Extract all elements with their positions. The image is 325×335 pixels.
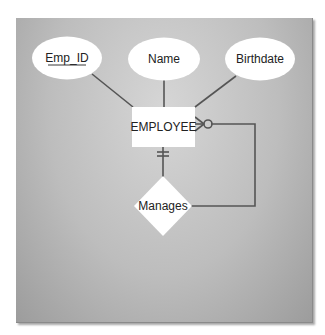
- crows-foot-optional-many-icon: [195, 117, 212, 131]
- attribute-birthdate: Birthdate: [225, 38, 295, 81]
- connector-empid: [92, 74, 133, 107]
- relationship-manages-label: Manages: [138, 199, 187, 213]
- relationship-manages: Manages: [134, 176, 192, 236]
- attribute-birthdate-label: Birthdate: [236, 52, 284, 66]
- attribute-emp-id-label: Emp_ID: [45, 51, 89, 65]
- entity-employee: EMPLOYEE: [130, 107, 196, 147]
- attribute-name-label: Name: [148, 52, 180, 66]
- connector-birthdate: [195, 76, 236, 107]
- attribute-name: Name: [128, 38, 200, 81]
- unary-loop-line: [191, 124, 255, 206]
- er-diagram: Emp_ID Name Birthdate EMPLOYEE Manages: [0, 0, 325, 335]
- entity-employee-label: EMPLOYEE: [130, 120, 196, 134]
- diagram-canvas: Emp_ID Name Birthdate EMPLOYEE Manages: [0, 0, 325, 335]
- attribute-emp-id: Emp_ID: [32, 37, 102, 80]
